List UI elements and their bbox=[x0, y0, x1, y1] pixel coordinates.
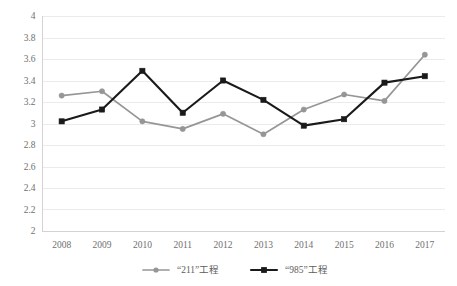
x-tick-label: 2010 bbox=[133, 240, 152, 250]
x-axis-tick-labels: 2008200920102011201220132014201520162017 bbox=[52, 240, 434, 250]
legend-square-marker-icon[interactable] bbox=[261, 267, 267, 273]
y-tick-label: 3.2 bbox=[24, 97, 36, 107]
y-tick-label: 4 bbox=[31, 11, 36, 21]
x-tick-label: 2011 bbox=[173, 240, 192, 250]
x-tick-label: 2009 bbox=[93, 240, 112, 250]
y-tick-label: 2.6 bbox=[24, 162, 36, 172]
data-point-marker bbox=[180, 126, 185, 131]
y-tick-label: 2.4 bbox=[24, 183, 36, 193]
data-point-marker bbox=[261, 132, 266, 137]
y-tick-label: 3.4 bbox=[24, 76, 36, 86]
data-point-marker bbox=[140, 68, 145, 73]
data-point-marker bbox=[180, 110, 185, 115]
data-point-marker bbox=[301, 107, 306, 112]
y-tick-label: 2.2 bbox=[24, 205, 36, 215]
data-point-marker bbox=[59, 119, 64, 124]
y-tick-label: 3.6 bbox=[24, 54, 36, 64]
data-point-marker bbox=[422, 74, 427, 79]
x-tick-label: 2017 bbox=[415, 240, 434, 250]
data-point-marker bbox=[382, 80, 387, 85]
data-point-marker bbox=[382, 98, 387, 103]
data-point-marker bbox=[220, 111, 225, 116]
x-tick-label: 2008 bbox=[52, 240, 71, 250]
chart-container: 22.22.42.62.833.23.43.63.84 200820092010… bbox=[0, 0, 457, 286]
data-point-marker bbox=[301, 123, 306, 128]
chart-legend: “211”工程“985”工程 bbox=[143, 265, 328, 275]
x-tick-label: 2012 bbox=[214, 240, 233, 250]
y-tick-label: 3.8 bbox=[24, 33, 36, 43]
data-point-marker bbox=[140, 119, 145, 124]
data-point-marker bbox=[342, 117, 347, 122]
y-tick-label: 3 bbox=[31, 119, 36, 129]
x-tick-label: 2015 bbox=[335, 240, 354, 250]
x-tick-label: 2014 bbox=[294, 240, 313, 250]
data-point-marker bbox=[422, 52, 427, 57]
data-point-marker bbox=[59, 93, 64, 98]
x-tick-label: 2016 bbox=[375, 240, 394, 250]
data-point-marker bbox=[342, 92, 347, 97]
legend-label[interactable]: “985”工程 bbox=[285, 265, 328, 275]
data-point-marker bbox=[99, 107, 104, 112]
data-point-marker bbox=[99, 89, 104, 94]
x-tick-label: 2013 bbox=[254, 240, 273, 250]
legend-circle-marker-icon[interactable] bbox=[153, 267, 158, 272]
line-chart: 22.22.42.62.833.23.43.63.84 200820092010… bbox=[0, 0, 457, 286]
data-point-marker bbox=[261, 97, 266, 102]
legend-label[interactable]: “211”工程 bbox=[177, 265, 219, 275]
data-point-marker bbox=[220, 78, 225, 83]
y-axis-tick-labels: 22.22.42.62.833.23.43.63.84 bbox=[24, 11, 36, 236]
y-tick-label: 2.8 bbox=[24, 140, 36, 150]
y-tick-label: 2 bbox=[31, 226, 36, 236]
